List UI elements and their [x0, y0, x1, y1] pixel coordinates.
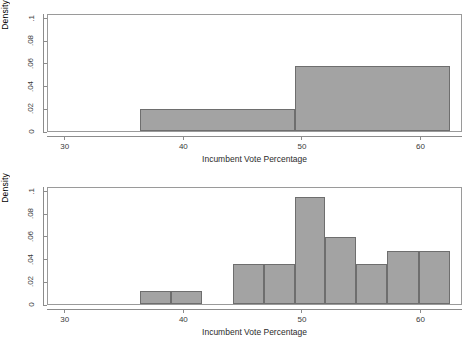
y-axis-line — [43, 14, 44, 132]
x-axis-title-bottom: Incumbent Vote Percentage — [202, 327, 307, 337]
y-axis-title-bottom: Density — [0, 173, 10, 203]
y-tick-label: .04 — [21, 82, 41, 91]
x-tick-label: 50 — [297, 142, 306, 151]
histogram-bar — [325, 237, 356, 304]
x-tick-label: 60 — [416, 315, 425, 324]
bars-bottom — [48, 188, 461, 304]
y-axis-title-top: Density — [0, 0, 10, 30]
histogram-bar — [140, 291, 171, 304]
y-tick-label: .06 — [21, 232, 41, 241]
y-tick-label: .08 — [21, 209, 41, 218]
x-tick-mark — [301, 136, 302, 140]
bars-top — [48, 15, 461, 131]
x-tick-label: 60 — [416, 142, 425, 151]
plot-area-bottom — [47, 187, 462, 305]
y-tick-label: 0 — [21, 127, 41, 136]
x-axis-title-top: Incumbent Vote Percentage — [202, 154, 307, 164]
y-tick-label: 0 — [21, 300, 41, 309]
histogram-figure: Density 0.02.04.06.08.1 30405060 Incumbe… — [0, 0, 475, 346]
x-tick-label: 40 — [179, 142, 188, 151]
x-tick-mark — [301, 309, 302, 313]
x-axis-line — [47, 136, 462, 137]
y-tick-label: .02 — [21, 104, 41, 113]
x-tick-label: 50 — [297, 315, 306, 324]
x-tick-mark — [420, 136, 421, 140]
histogram-bar — [419, 251, 450, 304]
panel-bottom: Density 0.02.04.06.08.1 30405060 Incumbe… — [0, 173, 475, 346]
x-tick-label: 30 — [60, 315, 69, 324]
x-axis-line — [47, 309, 462, 310]
histogram-bar — [356, 264, 387, 304]
y-axis-line — [43, 187, 44, 305]
y-tick-label: .06 — [21, 59, 41, 68]
histogram-bar — [171, 291, 202, 304]
x-tick-mark — [183, 136, 184, 140]
histogram-bar — [140, 109, 294, 131]
histogram-bar — [264, 264, 295, 304]
panel-top: Density 0.02.04.06.08.1 30405060 Incumbe… — [0, 0, 475, 173]
histogram-bar — [387, 251, 419, 304]
x-tick-label: 40 — [179, 315, 188, 324]
y-tick-label: .04 — [21, 255, 41, 264]
y-tick-label: .08 — [21, 36, 41, 45]
x-tick-mark — [183, 309, 184, 313]
plot-area-top — [47, 14, 462, 132]
histogram-bar — [295, 66, 450, 131]
x-tick-mark — [420, 309, 421, 313]
x-tick-label: 30 — [60, 142, 69, 151]
x-tick-mark — [64, 136, 65, 140]
y-tick-label: .1 — [21, 187, 41, 196]
y-tick-label: .1 — [21, 14, 41, 23]
histogram-bar — [233, 264, 264, 304]
histogram-bar — [295, 197, 326, 304]
y-tick-label: .02 — [21, 277, 41, 286]
x-tick-mark — [64, 309, 65, 313]
